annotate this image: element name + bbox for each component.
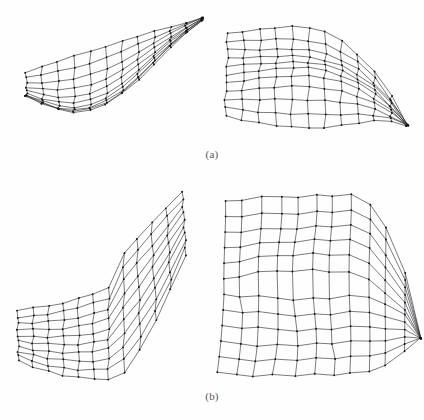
mesh-b-right bbox=[214, 176, 418, 390]
mesh-b-left-vertices bbox=[16, 191, 187, 381]
mesh-a-left bbox=[18, 8, 210, 146]
figure-panel-a bbox=[0, 0, 424, 170]
mesh-a-left-svg bbox=[18, 8, 210, 146]
mesh-a-left-edges bbox=[25, 17, 203, 112]
figure-panel-b bbox=[0, 172, 424, 410]
mesh-a-right-edges bbox=[224, 26, 408, 128]
mesh-b-left-svg bbox=[12, 180, 212, 390]
mesh-b-right-edges bbox=[217, 194, 421, 376]
panel-b-caption: (b) bbox=[0, 390, 424, 402]
mesh-b-left bbox=[12, 180, 212, 390]
figure-root: (a) (b) bbox=[0, 0, 424, 420]
mesh-b-right-vertices bbox=[216, 193, 422, 377]
mesh-b-right-svg bbox=[214, 176, 418, 390]
mesh-a-right bbox=[218, 10, 410, 146]
mesh-a-left-vertices bbox=[24, 17, 204, 114]
mesh-a-right-svg bbox=[218, 10, 410, 146]
panel-a-caption: (a) bbox=[0, 148, 424, 160]
mesh-b-left-edges bbox=[17, 192, 186, 380]
